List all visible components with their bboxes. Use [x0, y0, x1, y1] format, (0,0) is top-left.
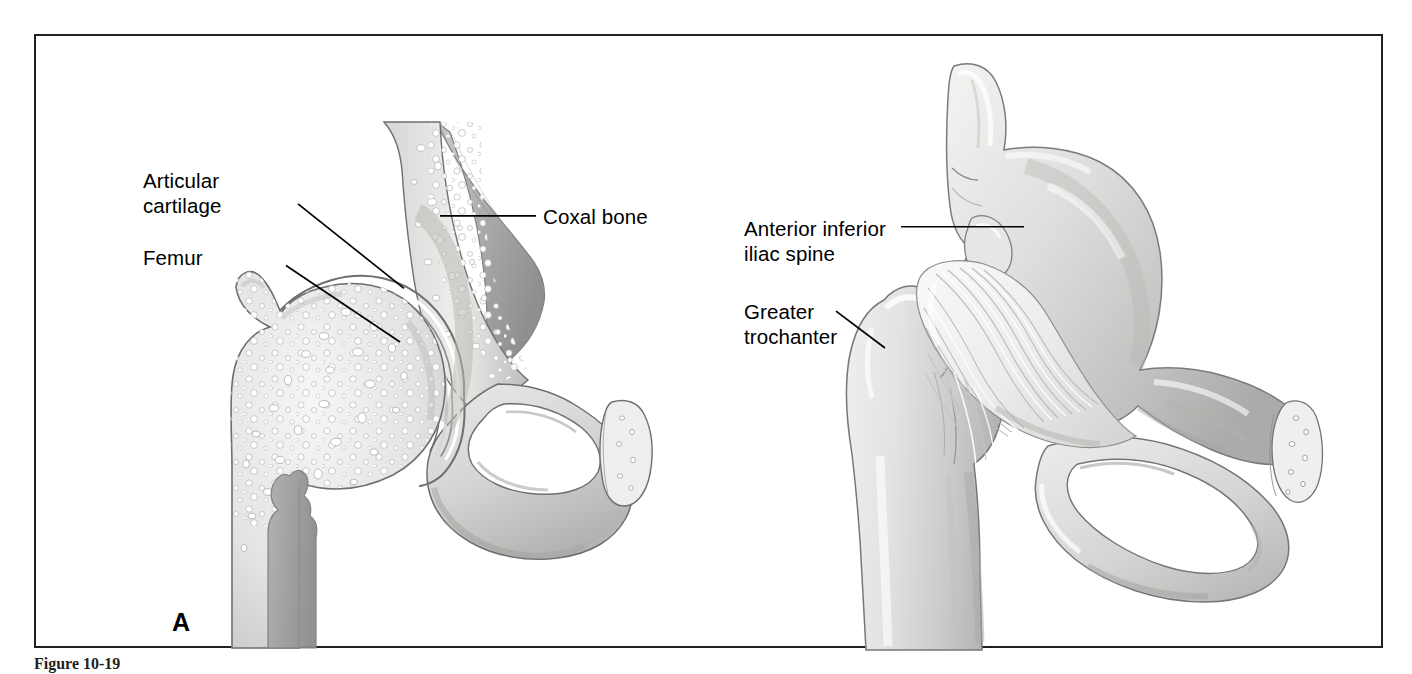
- label-articular-cartilage: Articular cartilage: [143, 168, 221, 218]
- pubic-symphysis-cut-end: [600, 401, 652, 507]
- panel-letter-a: A: [172, 608, 190, 637]
- figure-root: Articular cartilage Femur Coxal bone A: [0, 0, 1412, 674]
- figure-caption: Figure 10-19: [34, 655, 1383, 673]
- figure-caption-number: Figure 10-19: [34, 655, 120, 672]
- pubic-ramus-cut-end: [1270, 401, 1323, 502]
- hip-joint-coronal-section-illustration: [36, 36, 696, 650]
- panel-b: Anterior inferior iliac spine Greater tr…: [696, 36, 1385, 646]
- label-coxal-bone: Coxal bone: [543, 204, 648, 229]
- label-anterior-inferior-iliac-spine: Anterior inferior iliac spine: [744, 216, 886, 266]
- label-femur: Femur: [143, 245, 203, 270]
- panel-a: Articular cartilage Femur Coxal bone A: [36, 36, 696, 646]
- label-greater-trochanter: Greater trochanter: [744, 299, 837, 349]
- figure-border-frame: Articular cartilage Femur Coxal bone A: [34, 34, 1383, 648]
